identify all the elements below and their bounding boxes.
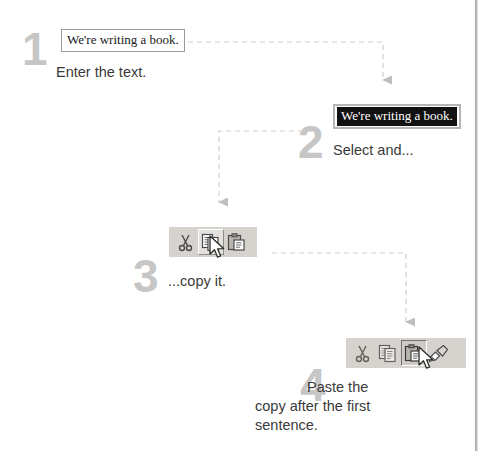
clipboard-toolbar-step4 (346, 338, 466, 368)
copy-button-step3[interactable] (198, 229, 224, 255)
selected-text-run: We're writing a book. (337, 107, 457, 126)
document-textbox-step1: We're writing a book. (61, 29, 185, 52)
cut-button-step3[interactable] (172, 229, 198, 255)
step-caption-4-line3: sentence. (255, 416, 465, 435)
step-caption-1: Enter the text. (56, 63, 146, 82)
connector-1-to-2 (188, 42, 383, 80)
document-textbox-step2: We're writing a book. (333, 104, 461, 129)
paste-button-step3[interactable] (224, 229, 250, 255)
step-caption-4-text: Paste thecopy after the firstsentence. (255, 378, 465, 435)
format-painter-icon (429, 344, 451, 363)
cut-icon (176, 233, 195, 252)
step-caption-2: Select and... (333, 141, 414, 160)
format-painter-button-step4[interactable] (427, 340, 453, 366)
copy-icon (201, 233, 222, 252)
paste-icon (404, 344, 424, 363)
step-caption-3: ...copy it. (168, 272, 226, 291)
paste-icon (227, 233, 247, 252)
step-number-1: 1 (22, 26, 47, 72)
connector-3-to-4 (272, 253, 406, 322)
page-edge-rule (475, 0, 478, 451)
step-number-3: 3 (133, 253, 158, 299)
cut-button-step4[interactable] (349, 340, 375, 366)
paste-button-step4[interactable] (401, 340, 427, 366)
copy-icon (378, 344, 399, 363)
step-caption-4-line2: copy after the first (255, 397, 465, 416)
step-caption-4-line1: Paste the (255, 378, 465, 397)
cut-icon (353, 344, 372, 363)
copy-button-step4[interactable] (375, 340, 401, 366)
clipboard-toolbar-step3 (169, 227, 257, 257)
step-number-2: 2 (298, 119, 323, 165)
instruction-figure: 1 We're writing a book. Enter the text. … (0, 0, 488, 451)
